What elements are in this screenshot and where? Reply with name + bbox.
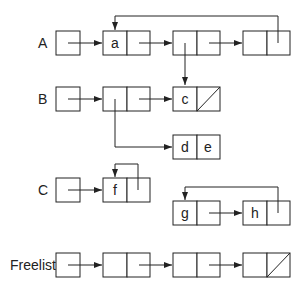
free-node3-car bbox=[243, 253, 267, 277]
cell-e: e bbox=[204, 139, 212, 155]
label-b: B bbox=[38, 91, 47, 107]
cell-a: a bbox=[111, 35, 119, 51]
row-c: C f bbox=[38, 164, 150, 202]
cell-h: h bbox=[251, 205, 259, 221]
label-a: A bbox=[38, 35, 48, 51]
node-de: d e bbox=[173, 135, 220, 159]
row-a: A a bbox=[38, 16, 290, 85]
linked-list-diagram: A a B c d e C bbox=[0, 0, 306, 293]
free-node1-car bbox=[103, 253, 127, 277]
cell-c: c bbox=[182, 91, 189, 107]
cell-d: d bbox=[181, 139, 189, 155]
node-a3-car bbox=[243, 31, 267, 55]
cell-g: g bbox=[181, 205, 189, 221]
free-node2-car bbox=[173, 253, 197, 277]
row-freelist: Freelist bbox=[10, 253, 290, 277]
cell-f: f bbox=[113, 182, 117, 198]
label-freelist: Freelist bbox=[10, 257, 56, 273]
cycle-gh: g h bbox=[173, 187, 290, 225]
label-c: C bbox=[38, 182, 48, 198]
